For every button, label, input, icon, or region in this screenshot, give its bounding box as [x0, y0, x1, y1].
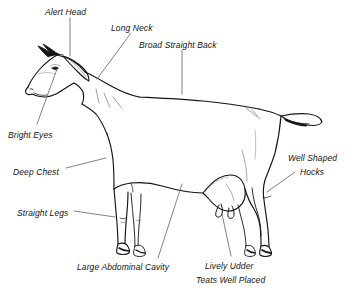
label-lively-udder: Lively Udder	[205, 261, 253, 272]
label-large-abdominal-cavity: Large Abdominal Cavity	[77, 262, 169, 273]
label-alert-head: Alert Head	[45, 7, 86, 18]
leader-large-abdominal-cavity	[158, 184, 182, 258]
leader-deep-chest	[66, 158, 106, 168]
leader-well-shaped-hocks	[267, 172, 295, 192]
label-long-neck: Long Neck	[111, 23, 153, 34]
leader-lively-udder	[222, 214, 231, 256]
leader-straight-legs	[74, 211, 115, 217]
label-bright-eyes: Bright Eyes	[8, 130, 53, 141]
label-deep-chest: Deep Chest	[13, 167, 59, 178]
label-hocks: Hocks	[300, 167, 324, 178]
label-straight-legs: Straight Legs	[17, 208, 68, 219]
label-well-shaped: Well Shaped	[288, 153, 337, 164]
goat-conformation-diagram: Alert Head Long Neck Broad Straight Back…	[0, 0, 355, 293]
leader-long-neck	[97, 33, 131, 79]
label-teats-well-placed: Teats Well Placed	[196, 275, 265, 286]
label-broad-straight-back: Broad Straight Back	[139, 40, 217, 51]
